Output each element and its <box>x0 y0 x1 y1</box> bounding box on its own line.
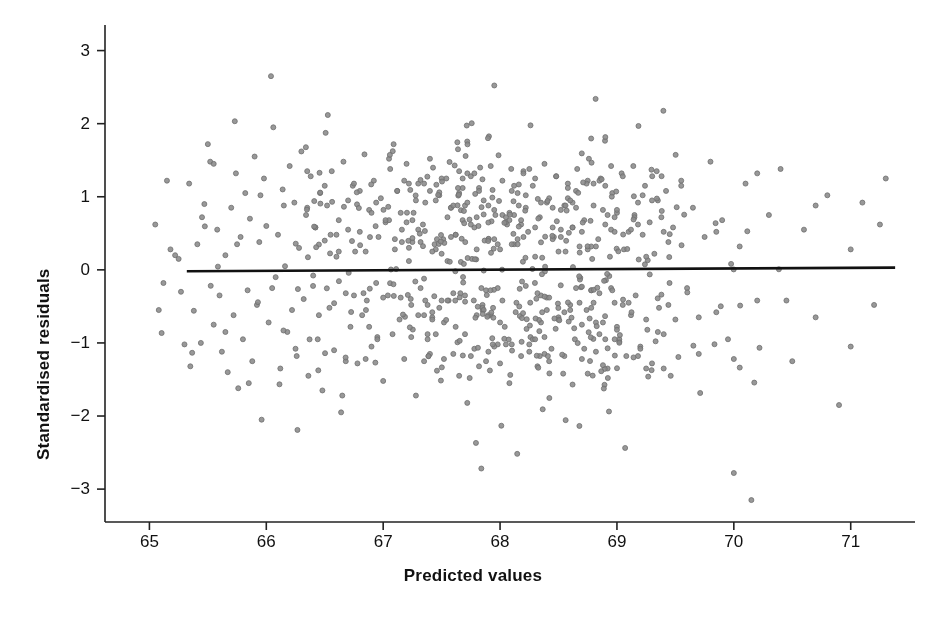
x-tick-label: 69 <box>607 532 626 552</box>
y-tick-label: −1 <box>52 333 90 353</box>
x-tick-label: 65 <box>140 532 159 552</box>
plot-drawing-area <box>0 0 946 623</box>
x-tick-label: 67 <box>374 532 393 552</box>
y-axis-title: Standardised residuals <box>34 269 54 460</box>
y-tick-label: −3 <box>52 479 90 499</box>
y-tick-label: −2 <box>52 406 90 426</box>
x-tick-label: 68 <box>491 532 510 552</box>
x-tick-label: 66 <box>257 532 276 552</box>
y-tick-label: 0 <box>52 260 90 280</box>
x-axis-title: Predicted values <box>0 566 946 586</box>
x-tick-label: 71 <box>841 532 860 552</box>
scatter-plot-figure: Standardised residuals Predicted values … <box>0 0 946 623</box>
x-tick-label: 70 <box>724 532 743 552</box>
y-tick-label: 3 <box>52 41 90 61</box>
y-tick-label: 2 <box>52 114 90 134</box>
y-tick-label: 1 <box>52 187 90 207</box>
